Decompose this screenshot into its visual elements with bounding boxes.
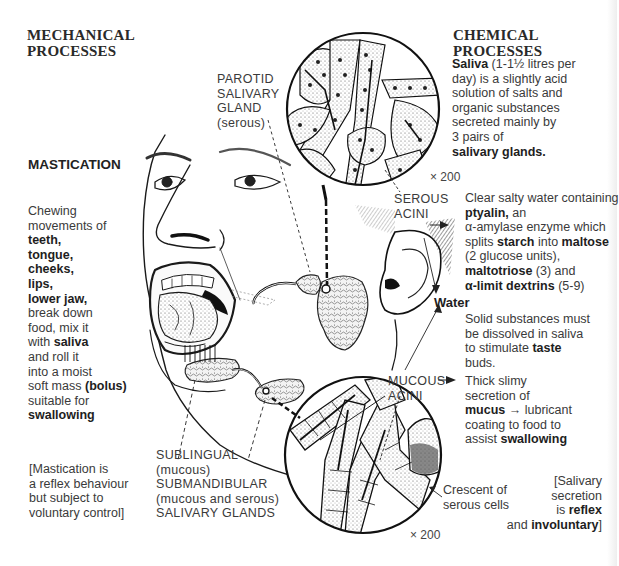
text-line: Clear salty water containing (465, 191, 619, 206)
salivary-reflex-note: [Salivary secretion is reflex (480, 474, 602, 518)
text-line: solution of salts and (452, 86, 576, 101)
heading-chemical-processes: CHEMICAL PROCESSES (453, 27, 542, 59)
text-fragment: assist (465, 432, 500, 446)
text-fragment: is (556, 503, 569, 517)
label-line: (serous) (217, 116, 279, 131)
mucous-acini-label: MUCOUS ACINI (388, 374, 445, 403)
text-line: secretion (480, 489, 602, 504)
text-line: movements of (28, 219, 127, 234)
term-alpha-limit-dextrins: α-limit dextrins (465, 279, 555, 293)
label-line: PAROTID (217, 72, 279, 87)
term-bolus: (bolus) (85, 379, 127, 393)
label-line: ACINI (394, 207, 449, 222)
label-line: SALIVARY (217, 87, 279, 102)
text-line: Chewing (28, 204, 127, 219)
text-fragment: (1-1½ litres per (488, 57, 576, 71)
text-fragment: with (28, 335, 54, 349)
text-line: day) is a slightly acid (452, 72, 576, 87)
water-text: Solid substances must be dissolved in sa… (465, 312, 590, 370)
label-salivary-glands: SALIVARY GLANDS (156, 506, 279, 521)
water-label: Water (434, 295, 470, 310)
text-line: [Salivary (480, 474, 602, 489)
label-line: MUCOUS (388, 374, 445, 389)
text-line: secretion of (465, 389, 572, 404)
parotid-gland-drawing (230, 275, 368, 350)
text-fragment: and (507, 518, 531, 532)
serous-secretion-text: Clear salty water containing ptyalin, an… (465, 191, 619, 293)
term-starch: starch (497, 235, 535, 249)
label-line: (mucous) (156, 463, 279, 478)
term-lower-jaw: lower jaw, (28, 292, 127, 307)
text-line: suitable for (28, 394, 127, 409)
label-line: SEROUS (394, 192, 449, 207)
text-line: voluntary control] (29, 506, 128, 521)
text-line: into a moist (28, 365, 127, 380)
text-fragment: into (534, 235, 561, 249)
text-line: Thick slimy (465, 374, 572, 389)
text-line: be dissolved in saliva (465, 327, 590, 342)
text-line: [Mastication is (29, 462, 128, 477)
heading-line: PROCESSES (27, 43, 135, 59)
text-line: buds. (465, 356, 590, 371)
mastication-text: Chewing movements of teeth, tongue, chee… (28, 204, 127, 423)
term-involuntary: involuntary (531, 518, 598, 532)
label-submandibular: SUBMANDIBULAR (156, 477, 279, 492)
text-line: 3 pairs of (452, 130, 576, 145)
term-ptyalin: ptyalin, (465, 206, 509, 220)
term-lips: lips, (28, 277, 127, 292)
text-line: organic substances (452, 101, 576, 116)
text-line: α-amylase enzyme which (465, 220, 619, 235)
heading-line: CHEMICAL (453, 27, 542, 43)
salivary-reflex-note-last-line: and involuntary] (440, 518, 602, 533)
text-fragment: (5-9) (555, 279, 585, 293)
serous-acini-label: SEROUS ACINI (394, 192, 449, 221)
label-line: (mucous and serous) (156, 492, 279, 507)
text-line: and roll it (28, 350, 127, 365)
text-line: secreted mainly by (452, 115, 576, 130)
text-fragment: soft mass (28, 379, 85, 393)
term-swallowing: swallowing (28, 408, 127, 423)
text-fragment: splits (465, 235, 497, 249)
text-fragment: (3) and (532, 264, 575, 278)
term-salivary-glands: salivary glands. (452, 145, 546, 159)
term-taste: taste (532, 341, 561, 355)
heading-mechanical-processes: MECHANICAL PROCESSES (27, 27, 135, 59)
text-line: (2 glucose units), (465, 249, 619, 264)
term-tongue: tongue, (28, 248, 127, 263)
magnification-top: × 200 (430, 170, 460, 184)
magnification-bottom: × 200 (410, 528, 440, 542)
sublingual-submandibular-labels: SUBLINGUAL (mucous) SUBMANDIBULAR (mucou… (156, 448, 279, 521)
term-mucus: mucus (465, 403, 505, 417)
text-line: coating to food to (465, 418, 572, 433)
mucous-secretion-text: Thick slimy secretion of mucus → lubrica… (465, 374, 572, 447)
sublingual-submandibular-drawing (185, 345, 304, 404)
term-saliva: saliva (54, 335, 89, 349)
mastication-reflex-note: [Mastication is a reflex behaviour but s… (29, 462, 128, 520)
text-fragment: ] (599, 518, 602, 532)
label-line: GLAND (217, 101, 279, 116)
label-sublingual: SUBLINGUAL (156, 448, 279, 463)
text-fragment: an (509, 206, 526, 220)
text-line: break down (28, 306, 127, 321)
term-maltotriose: maltotriose (465, 264, 532, 278)
label-line: ACINI (388, 389, 445, 404)
text-line: but subject to (29, 491, 128, 506)
text-fragment: to stimulate (465, 341, 532, 355)
text-fragment: → lubricant (505, 403, 572, 417)
heading-mastication: MASTICATION (28, 157, 121, 172)
text-line: food, mix it (28, 321, 127, 336)
term-cheeks: cheeks, (28, 262, 127, 277)
parotid-gland-label: PAROTID SALIVARY GLAND (serous) (217, 72, 279, 130)
term-reflex: reflex (569, 503, 602, 517)
term-maltose: maltose (562, 235, 609, 249)
term-swallowing: swallowing (500, 432, 567, 446)
text-line: Solid substances must (465, 312, 590, 327)
text-line: a reflex behaviour (29, 477, 128, 492)
term-saliva: Saliva (452, 57, 488, 71)
term-teeth: teeth, (28, 233, 127, 248)
saliva-intro-text: Saliva (1-1½ litres per day) is a slight… (452, 57, 576, 159)
heading-line: MECHANICAL (27, 27, 135, 43)
